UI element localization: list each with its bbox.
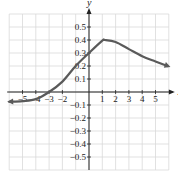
curve-left-arrow-icon bbox=[7, 98, 13, 104]
y-tick-label: 0.5 bbox=[75, 22, 87, 32]
x-tick-label: 3 bbox=[127, 94, 132, 104]
y-tick-label: 0.1 bbox=[75, 74, 86, 84]
x-axis-arrow-icon bbox=[169, 90, 175, 95]
x-tick-label: 1 bbox=[100, 94, 105, 104]
y-tick-label: −0.3 bbox=[70, 126, 87, 136]
chart: −5−4−3−2123450.50.40.30.20.1−0.1−0.2−0.3… bbox=[0, 0, 178, 178]
y-tick-label: −0.5 bbox=[70, 152, 87, 162]
axes bbox=[7, 8, 175, 170]
x-tick-label: 5 bbox=[153, 94, 158, 104]
x-tick-label: 4 bbox=[140, 94, 145, 104]
y-tick-label: −0.2 bbox=[70, 113, 86, 123]
y-axis-label: y bbox=[86, 0, 92, 8]
x-tick-label: 2 bbox=[113, 94, 118, 104]
x-tick-label: −3 bbox=[44, 94, 54, 104]
x-tick-label: −2 bbox=[58, 94, 68, 104]
y-tick-label: 0.4 bbox=[75, 35, 87, 45]
x-axis-label: x bbox=[177, 86, 178, 97]
y-tick-label: −0.4 bbox=[70, 139, 87, 149]
x-tick-label: −5 bbox=[18, 94, 28, 104]
y-tick-label: −0.1 bbox=[70, 100, 86, 110]
y-axis-arrow-icon bbox=[87, 8, 92, 14]
